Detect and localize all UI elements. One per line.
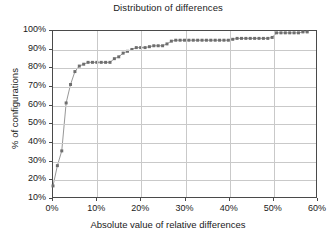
series-line — [53, 32, 307, 186]
data-point-marker — [170, 40, 173, 43]
plot-area — [52, 30, 317, 198]
data-point-marker — [240, 37, 243, 40]
data-point-marker — [244, 37, 247, 40]
data-point-marker — [157, 44, 160, 47]
gridline-vertical — [97, 31, 98, 197]
data-point-marker — [249, 37, 252, 40]
gridline-horizontal — [53, 50, 316, 51]
y-axis-tick-label: 50% — [8, 117, 46, 127]
data-point-marker — [174, 39, 177, 42]
data-point-marker — [73, 70, 76, 73]
x-axis-tick-label: 30% — [165, 203, 205, 213]
y-axis-tickmark — [49, 49, 52, 50]
x-axis-tick-label: 20% — [120, 203, 160, 213]
data-point-marker — [161, 44, 164, 47]
data-point-marker — [52, 184, 55, 187]
gridline-vertical — [230, 31, 231, 197]
x-axis-tickmark — [96, 198, 97, 201]
y-axis-tickmark — [49, 67, 52, 68]
data-point-marker — [117, 55, 120, 58]
data-point-marker — [135, 46, 138, 49]
y-axis-tickmark — [49, 142, 52, 143]
x-axis-tick-label: 0% — [32, 203, 72, 213]
data-series-layer — [53, 31, 316, 197]
data-point-marker — [266, 37, 269, 40]
chart-container: Distribution of differences Absolute val… — [0, 0, 336, 239]
data-point-marker — [236, 37, 239, 40]
data-point-marker — [293, 31, 296, 34]
data-point-marker — [306, 30, 309, 33]
data-point-marker — [69, 83, 72, 86]
y-axis-tick-label: 60% — [8, 99, 46, 109]
y-axis-tickmark — [49, 86, 52, 87]
data-point-marker — [218, 39, 221, 42]
data-point-marker — [201, 39, 204, 42]
data-point-marker — [297, 31, 300, 34]
y-axis-tick-label: 20% — [8, 173, 46, 183]
x-axis-tick-label: 40% — [209, 203, 249, 213]
data-point-marker — [56, 164, 59, 167]
data-point-marker — [148, 45, 151, 48]
y-axis-tickmark — [49, 123, 52, 124]
data-point-marker — [301, 30, 304, 33]
x-axis-tickmark — [273, 198, 274, 201]
chart-title: Distribution of differences — [0, 2, 336, 13]
x-axis-tickmark — [229, 198, 230, 201]
data-point-marker — [214, 39, 217, 42]
data-point-marker — [60, 149, 63, 152]
data-point-marker — [87, 61, 90, 64]
gridline-horizontal — [53, 180, 316, 181]
y-axis-tick-label: 30% — [8, 155, 46, 165]
y-axis-tick-label: 70% — [8, 80, 46, 90]
data-point-marker — [78, 65, 81, 68]
x-axis-tick-label: 60% — [297, 203, 336, 213]
gridline-vertical — [274, 31, 275, 197]
data-point-marker — [152, 44, 155, 47]
data-point-marker — [222, 39, 225, 42]
x-axis-tick-label: 50% — [253, 203, 293, 213]
data-point-marker — [196, 39, 199, 42]
data-point-marker — [91, 61, 94, 64]
data-point-marker — [279, 31, 282, 34]
x-axis-tickmark — [140, 198, 141, 201]
y-axis-tickmark — [49, 30, 52, 31]
data-point-marker — [187, 39, 190, 42]
y-axis-tick-label: 40% — [8, 136, 46, 146]
x-axis-label: Absolute value of relative differences — [0, 219, 336, 230]
gridline-horizontal — [53, 106, 316, 107]
data-point-marker — [209, 39, 212, 42]
gridline-horizontal — [53, 162, 316, 163]
data-point-marker — [288, 31, 291, 34]
y-axis-tick-label: 100% — [8, 24, 46, 34]
gridline-vertical — [186, 31, 187, 197]
gridline-horizontal — [53, 143, 316, 144]
gridline-horizontal — [53, 68, 316, 69]
y-axis-tick-label: 80% — [8, 61, 46, 71]
data-point-marker — [275, 31, 278, 34]
data-point-marker — [284, 31, 287, 34]
x-axis-tick-label: 10% — [76, 203, 116, 213]
x-axis-tickmark — [52, 198, 53, 201]
data-point-marker — [100, 61, 103, 64]
data-point-marker — [231, 38, 234, 41]
data-point-marker — [179, 39, 182, 42]
y-axis-tickmark — [49, 179, 52, 180]
data-point-marker — [113, 57, 116, 60]
data-point-marker — [144, 46, 147, 49]
data-point-marker — [108, 61, 111, 64]
data-point-marker — [192, 39, 195, 42]
data-point-marker — [65, 101, 68, 104]
data-point-marker — [82, 63, 85, 66]
data-point-marker — [253, 37, 256, 40]
data-point-marker — [205, 39, 208, 42]
gridline-horizontal — [53, 124, 316, 125]
x-axis-tickmark — [185, 198, 186, 201]
y-axis-tickmark — [49, 105, 52, 106]
data-point-marker — [262, 37, 265, 40]
y-axis-tickmark — [49, 161, 52, 162]
y-axis-tick-label: 90% — [8, 43, 46, 53]
data-point-marker — [104, 61, 107, 64]
data-point-marker — [122, 52, 125, 55]
x-axis-tickmark — [317, 198, 318, 201]
data-point-marker — [258, 37, 261, 40]
